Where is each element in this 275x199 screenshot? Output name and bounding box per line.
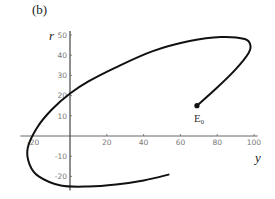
y-tick-label: 40 — [57, 51, 67, 60]
x-tick-label: 60 — [176, 138, 186, 147]
y-tick-label: -10 — [55, 152, 67, 161]
tick-labels: -20204060801005040302010-10-20 — [27, 31, 261, 181]
y-tick-label: -20 — [55, 172, 67, 181]
y-tick-label: 30 — [57, 71, 67, 80]
y-tick-label: 50 — [57, 31, 67, 40]
x-tick-label: 40 — [139, 138, 149, 147]
y-axis-label: r — [49, 28, 55, 43]
e0-point-marker — [194, 103, 199, 108]
x-tick-label: 20 — [102, 138, 112, 147]
x-tick-label: 100 — [247, 138, 262, 147]
e0-label: E0 — [194, 112, 204, 125]
axes — [20, 31, 257, 191]
x-tick-label: 80 — [212, 138, 222, 147]
chart-canvas: -20204060801005040302010-10-20 E0 y r — [0, 0, 275, 199]
x-axis-label: y — [253, 150, 261, 165]
y-tick-label: 10 — [57, 112, 67, 121]
